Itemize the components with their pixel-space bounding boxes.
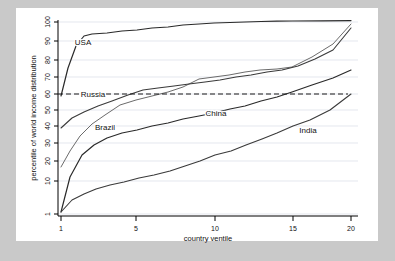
x-tick-15: 15 bbox=[289, 225, 297, 232]
y-tick-50: 50 bbox=[44, 106, 51, 114]
x-tick-20: 20 bbox=[347, 225, 355, 232]
y-tick-80: 80 bbox=[44, 56, 51, 64]
y-tick-100: 100 bbox=[44, 16, 51, 28]
x-axis bbox=[58, 216, 358, 221]
y-tick-90: 90 bbox=[44, 37, 51, 45]
y-tick-labels: 100 90 80 70 60 50 40 30 20 10 1 bbox=[44, 16, 51, 216]
series-label-china: China bbox=[206, 109, 227, 118]
series-label-india: India bbox=[299, 126, 317, 135]
y-tick-10: 10 bbox=[44, 177, 51, 185]
chart-svg: 100 90 80 70 60 50 40 30 20 10 1 percent… bbox=[0, 0, 395, 261]
y-tick-40: 40 bbox=[44, 122, 51, 130]
series-line-usa bbox=[61, 21, 351, 96]
y-tick-70: 70 bbox=[44, 73, 51, 81]
series-label-brazil: Brazil bbox=[95, 123, 115, 132]
y-axis bbox=[54, 20, 58, 216]
y-tick-20: 20 bbox=[44, 157, 51, 165]
y-tick-30: 30 bbox=[44, 139, 51, 147]
x-tick-5: 5 bbox=[134, 225, 138, 232]
series-label-usa: USA bbox=[75, 38, 92, 47]
y-axis-title: percentile of world income distribution bbox=[29, 55, 38, 180]
x-tick-10: 10 bbox=[211, 225, 219, 232]
series-label-russia: Russia bbox=[81, 90, 106, 99]
y-tick-1: 1 bbox=[44, 212, 51, 216]
x-axis-title: country ventile bbox=[184, 234, 232, 243]
chart-figure: 100 90 80 70 60 50 40 30 20 10 1 percent… bbox=[0, 0, 395, 261]
x-tick-labels: 1 5 10 15 20 bbox=[59, 225, 355, 232]
y-tick-60: 60 bbox=[44, 90, 51, 98]
x-tick-1: 1 bbox=[59, 225, 63, 232]
